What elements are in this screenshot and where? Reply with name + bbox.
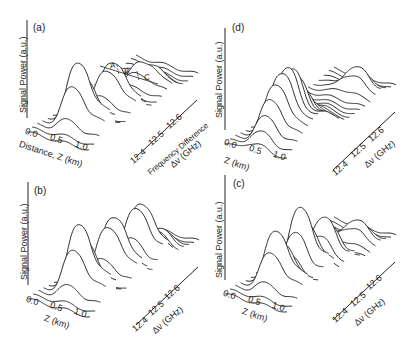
region-c-label: C (143, 72, 151, 82)
waterfall-plot-a (0, 0, 200, 165)
panel-d: (d) Signal Power (a.u.) 0.0 0.5 1.0 Z (k… (200, 0, 400, 165)
panel-label: (b) (34, 185, 46, 196)
panel-label: (d) (232, 22, 244, 33)
panel-c: (c) Signal Power (a.u.) 0.0 0.5 1.0 Z (k… (200, 170, 400, 335)
caption-strip (0, 330, 405, 339)
panel-label: (c) (233, 178, 245, 189)
panel-label: (a) (33, 22, 45, 33)
panel-b: (b) Signal Power (a.u.) 0.0 0.5 1.0 Z (k… (0, 170, 200, 335)
y-axis-label: Signal Power (a.u.) (19, 203, 29, 280)
y-axis-label: Signal Power (a.u.) (214, 201, 224, 278)
panel-a: (a) Signal Power (a.u.) 0.0 0.5 1.0 Dist… (0, 0, 200, 165)
y-axis-label: Signal Power (a.u.) (18, 36, 28, 113)
y-axis-label: Signal Power (a.u.) (214, 41, 224, 118)
